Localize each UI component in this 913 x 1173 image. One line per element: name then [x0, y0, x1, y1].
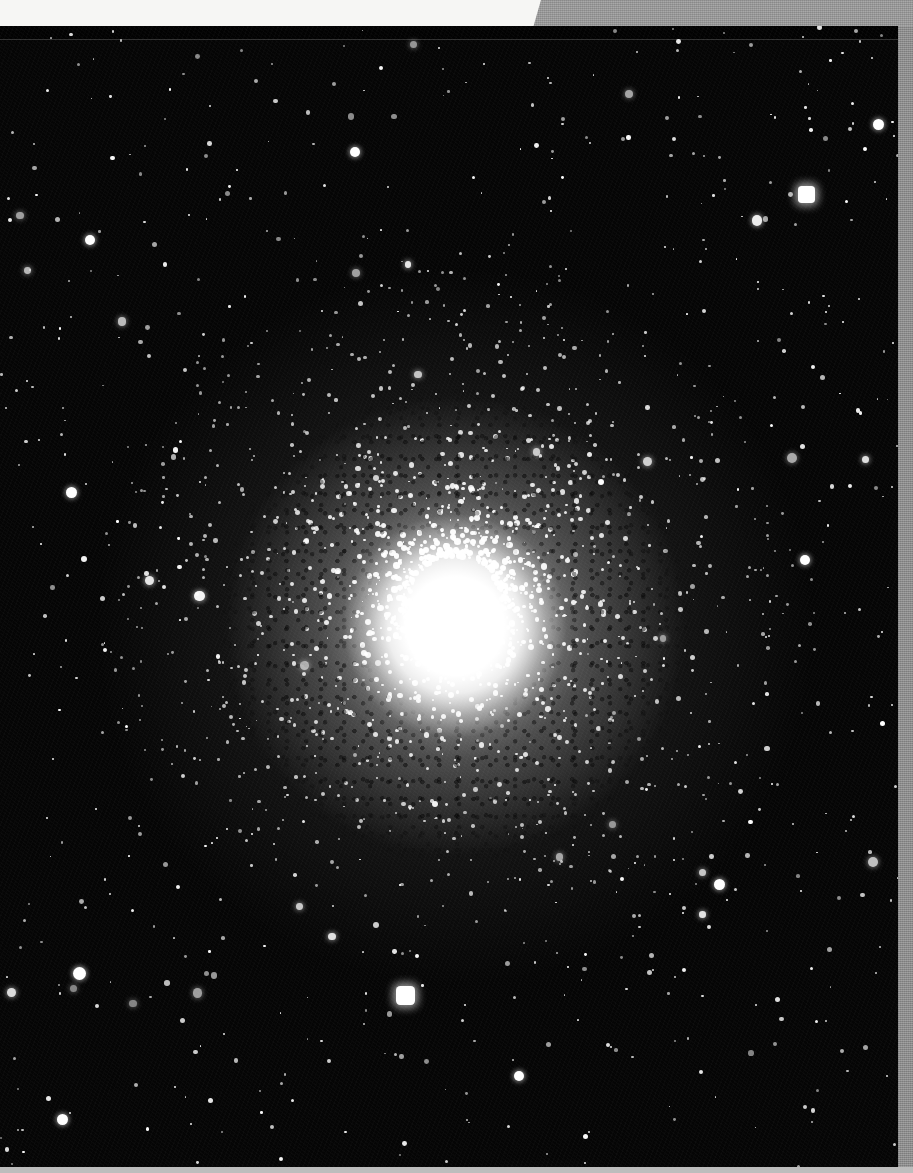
- plate-top-dark-band: [0, 26, 898, 39]
- bright-star-mid-right: [800, 555, 810, 565]
- bright-star-lower-right: [714, 879, 725, 890]
- bright-star-lower-mid: [514, 1071, 524, 1081]
- bright-star-upper-mid: [350, 147, 360, 157]
- page-margin-right-gray: [897, 26, 913, 1173]
- bright-star-left-lower: [73, 967, 86, 980]
- cluster-outer-halo-glow: [95, 266, 815, 986]
- bright-star-bottom-left: [57, 1114, 68, 1125]
- bright-star-top-right: [798, 186, 815, 203]
- bright-star-right-upper: [873, 119, 884, 130]
- bright-star-left-mid: [66, 487, 77, 498]
- globular-cluster-photo: [0, 26, 898, 1167]
- bright-star-bottom-center: [396, 986, 415, 1005]
- cluster-mid-halo-glow: [225, 396, 685, 856]
- plate-scan-seam-line: [0, 39, 898, 40]
- cluster-saturated-core: [343, 514, 567, 738]
- cluster-halftone-mottle: [215, 386, 695, 866]
- bright-star-left-upper: [85, 235, 95, 245]
- page-margin-top-gray: [533, 0, 913, 28]
- page-margin-bottom-gray: [0, 1167, 913, 1173]
- emulsion-grain-overlay: [0, 26, 898, 1167]
- page-canvas: Black-and-white photographic plate of a …: [0, 0, 913, 1173]
